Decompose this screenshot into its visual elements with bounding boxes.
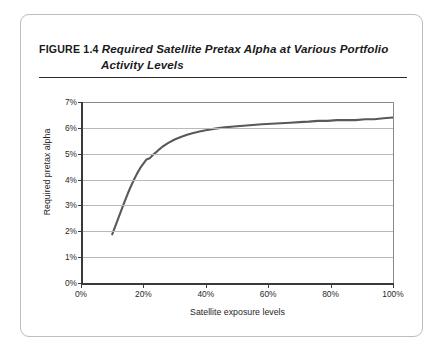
x-axis-tick [268,284,269,288]
x-axis-tick-label: 100% [382,289,403,299]
line-chart: 0%1%2%3%4%5%6%7% 0%20%40%60%80%100% Sate… [21,15,424,338]
y-axis-tick-label: 4% [51,175,77,185]
x-axis-tick-label: 40% [197,289,214,299]
plot-top-border [81,102,394,103]
y-axis-tick-label: 0% [51,278,77,288]
x-axis-tick-label: 20% [135,289,152,299]
y-axis-tick-label: 2% [51,226,77,236]
gridline [81,205,393,206]
y-axis-tick-label: 7% [51,97,77,107]
x-axis-tick [81,284,82,288]
gridline [81,257,393,258]
series-line-required-pretax-alpha [81,102,393,283]
plot-right-border [393,102,394,284]
y-axis-tick-label: 1% [51,252,77,262]
x-axis-tick-label: 80% [322,289,339,299]
plot-area [81,102,393,283]
gridline [81,154,393,155]
x-axis-tick-label: 0% [75,289,87,299]
x-axis-tick [143,284,144,288]
x-axis-tick [206,284,207,288]
x-axis-line [81,283,394,285]
gridline [81,128,393,129]
y-axis-tick-label: 3% [51,200,77,210]
y-axis-line [81,102,83,284]
y-axis-tick-label: 5% [51,149,77,159]
y-axis-title: Required pretax alpha [42,102,52,242]
x-axis-tick [331,284,332,288]
figure-frame: FIGURE 1.4 Required Satellite Pretax Alp… [20,14,423,337]
y-axis-tick-label: 6% [51,123,77,133]
gridline [81,180,393,181]
x-axis-tick-label: 60% [260,289,277,299]
x-axis-tick [393,284,394,288]
x-axis-title: Satellite exposure levels [81,307,394,317]
gridline [81,231,393,232]
